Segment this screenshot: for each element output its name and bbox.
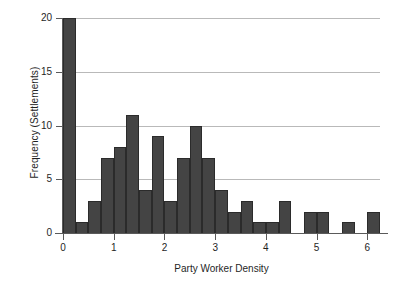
histogram-bar bbox=[342, 222, 355, 233]
y-tick-label-20: 20 bbox=[28, 13, 52, 23]
histogram-bar bbox=[279, 201, 292, 233]
histogram-bar bbox=[253, 222, 266, 233]
x-axis-line bbox=[55, 233, 388, 234]
histogram-bar bbox=[190, 126, 203, 234]
x-tick-mark-1 bbox=[114, 234, 115, 240]
histogram-bar bbox=[76, 222, 89, 233]
histogram-bar bbox=[228, 212, 241, 234]
x-tick-label-5: 5 bbox=[307, 242, 327, 253]
y-tick-label-15: 15 bbox=[28, 67, 52, 77]
x-tick-label-3: 3 bbox=[205, 242, 225, 253]
histogram-bar bbox=[304, 212, 317, 234]
histogram-bar bbox=[126, 115, 139, 233]
histogram-bar bbox=[202, 158, 215, 233]
histogram-bar bbox=[164, 201, 177, 233]
histogram-bar bbox=[367, 212, 380, 234]
x-tick-label-0: 0 bbox=[53, 242, 73, 253]
y-tick-label-5: 5 bbox=[28, 174, 52, 184]
bar-series bbox=[63, 18, 380, 233]
y-tick-label-10: 10 bbox=[28, 121, 52, 131]
histogram-bar bbox=[241, 201, 254, 233]
histogram-bar bbox=[266, 222, 279, 233]
histogram-bar bbox=[101, 158, 114, 233]
y-tick-mark-15 bbox=[56, 72, 63, 73]
x-tick-mark-5 bbox=[317, 234, 318, 240]
x-tick-mark-2 bbox=[164, 234, 165, 240]
x-tick-mark-0 bbox=[63, 234, 64, 240]
y-tick-mark-5 bbox=[56, 179, 63, 180]
histogram-bar bbox=[63, 18, 76, 233]
x-tick-label-1: 1 bbox=[104, 242, 124, 253]
y-tick-mark-0 bbox=[56, 233, 63, 234]
x-axis-title: Party Worker Density bbox=[63, 263, 380, 274]
x-tick-label-6: 6 bbox=[357, 242, 377, 253]
histogram-bar bbox=[114, 147, 127, 233]
x-tick-mark-4 bbox=[266, 234, 267, 240]
x-tick-label-4: 4 bbox=[256, 242, 276, 253]
histogram-bar bbox=[88, 201, 101, 233]
histogram-bar bbox=[139, 190, 152, 233]
histogram-bar bbox=[177, 158, 190, 233]
histogram-bar bbox=[317, 212, 330, 234]
x-tick-label-2: 2 bbox=[154, 242, 174, 253]
y-tick-mark-10 bbox=[56, 126, 63, 127]
y-tick-mark-20 bbox=[56, 18, 63, 19]
y-tick-label-0: 0 bbox=[28, 228, 52, 238]
histogram-bar bbox=[215, 190, 228, 233]
x-tick-mark-6 bbox=[367, 234, 368, 240]
histogram-figure: Frequency (Settlements) 05101520 0123456… bbox=[0, 0, 404, 287]
x-tick-mark-3 bbox=[215, 234, 216, 240]
histogram-bar bbox=[152, 136, 165, 233]
